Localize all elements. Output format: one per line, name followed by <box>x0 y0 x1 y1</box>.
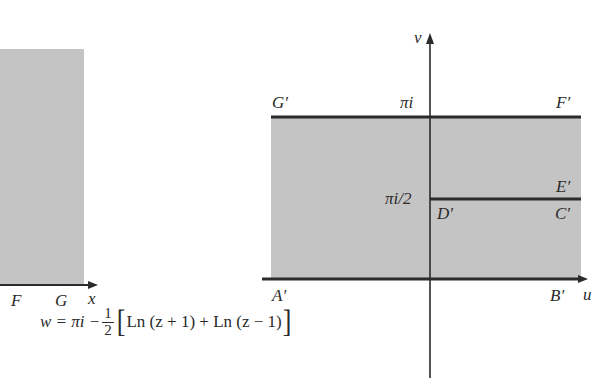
u-axis-label: u <box>583 286 592 303</box>
mapping-formula: w = πi − 1 2 [ Ln (z + 1) + Ln (z − 1) ] <box>40 306 292 339</box>
formula-fraction: 1 2 <box>102 306 114 339</box>
tick-label-pi-i-half: πi/2 <box>385 190 411 207</box>
v-axis-label: v <box>414 29 422 46</box>
point-label-G-prime: G′ <box>272 94 288 111</box>
point-label-F: F <box>11 292 21 309</box>
x-axis-arrow-icon <box>88 281 98 289</box>
formula-body: Ln (z + 1) + Ln (z − 1) <box>126 312 281 332</box>
z-plane-shaded-region <box>0 49 84 285</box>
tick-label-pi-i: πi <box>400 94 413 111</box>
point-label-B-prime: B′ <box>550 287 564 304</box>
point-label-E-prime: E′ <box>556 178 570 195</box>
point-label-C-prime: C′ <box>555 205 570 222</box>
point-label-A-prime: A′ <box>272 287 286 304</box>
fraction-denominator: 2 <box>104 323 112 339</box>
v-axis-arrow-icon <box>426 33 434 44</box>
open-bracket: [ <box>117 304 126 342</box>
formula-lhs: w = πi − <box>40 312 100 332</box>
fraction-numerator: 1 <box>102 306 114 323</box>
point-label-D-prime: D′ <box>437 205 453 222</box>
close-bracket: ] <box>283 304 292 342</box>
u-axis-arrow-icon <box>578 275 588 283</box>
x-axis-label: x <box>88 290 96 307</box>
point-label-F-prime: F′ <box>556 94 570 111</box>
